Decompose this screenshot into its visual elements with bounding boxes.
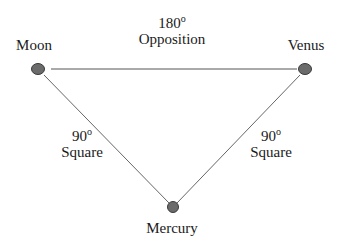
mercury-label: Mercury	[146, 221, 198, 236]
opposition-name: Opposition	[139, 31, 206, 47]
degree-symbol-icon: o	[276, 126, 281, 137]
degree-symbol-icon: o	[181, 13, 186, 24]
moon-mercury-degrees: 90o	[61, 128, 103, 144]
aspect-diagram: Moon Venus Mercury 180o Opposition 90o S…	[0, 0, 340, 252]
venus-mercury-aspect-name: Square	[250, 144, 292, 160]
moon-node-icon	[32, 64, 45, 75]
moon-mercury-aspect-name: Square	[61, 144, 103, 160]
mercury-node-icon	[168, 202, 179, 213]
venus-label: Venus	[288, 38, 325, 53]
degree-symbol-icon: o	[87, 126, 92, 137]
moon-mercury-aspect-label: 90o Square	[61, 128, 103, 160]
venus-mercury-degrees: 90o	[250, 128, 292, 144]
moon-label: Moon	[16, 38, 52, 53]
venus-node-icon	[299, 64, 312, 75]
venus-mercury-aspect-label: 90o Square	[250, 128, 292, 160]
opposition-aspect-label: 180o Opposition	[139, 15, 206, 47]
opposition-degrees: 180o	[139, 15, 206, 31]
